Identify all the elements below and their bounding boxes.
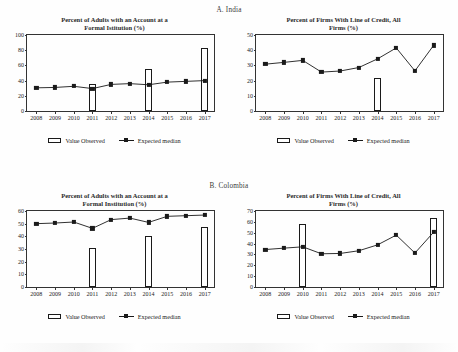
legend-label: Value Observed: [294, 137, 333, 144]
x-axis-tick-label: 2017: [428, 291, 440, 297]
chart-title-line2: Formal Institution (%): [83, 200, 147, 207]
plot-inner: 0102030405060200820092010201120122013201…: [27, 211, 214, 287]
y-axis-tick-label: 40: [247, 241, 253, 247]
panel-a-india: A. India Percent of Adults with an Accou…: [0, 0, 458, 176]
legend-label: Expected median: [367, 137, 410, 144]
x-axis-tick-label: 2016: [180, 291, 192, 297]
y-axis-tick-label: 50: [18, 221, 24, 227]
data-point-marker: [282, 60, 286, 64]
y-axis-tick-label: 60: [18, 62, 24, 68]
plot-area: 0102030405060702008200920102011201220132…: [255, 210, 444, 288]
data-point-marker: [413, 251, 417, 255]
chart-title-line2: Firms (%): [329, 200, 358, 207]
x-axis-tick-label: 2010: [68, 115, 80, 121]
chart-legend: Value Observed Expected median: [0, 137, 229, 144]
data-point-marker: [357, 65, 361, 69]
y-axis-tick-label: 10: [247, 273, 253, 279]
y-axis-tick-label: 100: [15, 32, 24, 38]
x-axis-tick: [284, 111, 285, 114]
line-square-marker-icon: [119, 138, 134, 143]
x-axis-tick: [340, 287, 341, 290]
x-axis-tick-label: 2017: [428, 115, 440, 121]
x-axis-tick-label: 2013: [353, 115, 365, 121]
expected-median-line: [27, 35, 214, 111]
legend-item-value-observed: Value Observed: [48, 313, 104, 320]
chart-legend: Value Observed Expected median: [229, 137, 458, 144]
chart-colombia-accounts: Percent of Adults with an Account at a F…: [0, 190, 229, 345]
x-axis-tick-label: 2016: [180, 115, 192, 121]
x-axis-tick-label: 2017: [199, 115, 211, 121]
x-axis-tick-label: 2014: [143, 291, 155, 297]
y-axis-tick: [25, 111, 28, 112]
panel-a-charts-row: Percent of Adults with an Account at a F…: [0, 14, 458, 169]
data-point-marker: [338, 69, 342, 73]
legend-label: Value Observed: [65, 313, 104, 320]
plot-inner: 0102030405060702008200920102011201220132…: [256, 211, 443, 287]
legend-item-expected-median: Expected median: [348, 313, 410, 320]
x-axis-tick-label: 2013: [124, 115, 136, 121]
x-axis-tick-label: 2009: [278, 291, 290, 297]
x-axis-tick: [111, 111, 112, 114]
data-point-marker: [90, 226, 94, 230]
x-axis-tick-label: 2009: [49, 115, 61, 121]
x-axis-tick: [130, 111, 131, 114]
x-axis-tick: [130, 287, 131, 290]
x-axis-tick: [205, 287, 206, 290]
x-axis-tick: [303, 287, 304, 290]
x-axis-tick: [378, 111, 379, 114]
data-point-marker: [184, 214, 188, 218]
x-axis-tick: [55, 111, 56, 114]
x-axis-tick-label: 2014: [372, 115, 384, 121]
y-axis-tick-label: 10: [18, 271, 24, 277]
x-axis-tick: [55, 287, 56, 290]
x-axis-tick: [359, 287, 360, 290]
x-axis-tick: [74, 287, 75, 290]
x-axis-tick: [92, 287, 93, 290]
plot-wrap: 0204060801002008200920102011201220132014…: [4, 32, 223, 132]
legend-item-expected-median: Expected median: [348, 137, 410, 144]
expected-median-line: [256, 35, 443, 111]
data-point-marker: [357, 249, 361, 253]
y-axis-tick-label: 80: [18, 47, 24, 53]
chart-title: Percent of Firms With Line of Credit, Al…: [229, 190, 458, 208]
x-axis-tick-label: 2010: [297, 115, 309, 121]
legend-item-expected-median: Expected median: [119, 137, 181, 144]
x-axis-tick-label: 2011: [316, 291, 328, 297]
x-axis-tick: [265, 111, 266, 114]
chart-colombia-credit: Percent of Firms With Line of Credit, Al…: [229, 190, 458, 345]
line-square-marker-icon: [348, 314, 363, 319]
x-axis-tick: [92, 111, 93, 114]
data-point-marker: [301, 245, 305, 249]
data-point-marker: [184, 79, 188, 83]
data-point-marker: [128, 82, 132, 86]
x-axis-tick: [36, 111, 37, 114]
legend-label: Value Observed: [65, 137, 104, 144]
x-axis-tick: [359, 111, 360, 114]
chart-india-credit: Percent of Firms With Line of Credit, Al…: [229, 14, 458, 169]
x-axis-tick: [205, 111, 206, 114]
y-axis-tick-label: 20: [247, 262, 253, 268]
data-point-marker: [128, 216, 132, 220]
data-point-marker: [109, 218, 113, 222]
x-axis-tick-label: 2014: [143, 115, 155, 121]
y-axis-tick-label: 70: [247, 208, 253, 214]
x-axis-tick-label: 2016: [409, 291, 421, 297]
data-point-marker: [165, 80, 169, 84]
y-axis-tick-label: 40: [18, 233, 24, 239]
x-axis-tick: [284, 287, 285, 290]
legend-item-expected-median: Expected median: [119, 313, 181, 320]
x-axis-tick: [434, 287, 435, 290]
data-point-marker: [203, 213, 207, 217]
data-point-marker: [34, 86, 38, 90]
x-axis-tick: [340, 111, 341, 114]
x-axis-tick-label: 2013: [353, 291, 365, 297]
data-point-marker: [375, 243, 379, 247]
chart-title: Percent of Adults with an Account at a F…: [0, 190, 229, 208]
x-axis-tick-label: 2011: [316, 115, 328, 121]
data-point-marker: [53, 85, 57, 89]
open-rectangle-swatch-icon: [277, 138, 290, 143]
y-axis-tick-label: 40: [247, 47, 253, 53]
data-point-marker: [146, 83, 150, 87]
x-axis-tick: [415, 111, 416, 114]
data-point-marker: [282, 246, 286, 250]
